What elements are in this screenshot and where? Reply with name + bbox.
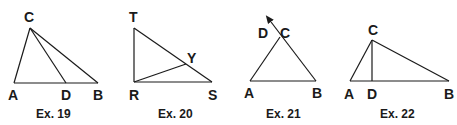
figure-ex-21: D C A B Ex. 21 bbox=[244, 18, 322, 121]
segment-ts bbox=[134, 28, 212, 82]
label-point-a: A bbox=[8, 87, 18, 103]
ray-bd bbox=[268, 18, 316, 81]
geometry-exercises-figure: C A D B Ex. 19 T Y R S Ex. 20 D C A B Ex… bbox=[0, 0, 457, 125]
label-point-b: B bbox=[444, 86, 454, 102]
figure-ex-20: T Y R S Ex. 20 bbox=[129, 9, 217, 121]
label-point-c: C bbox=[280, 25, 290, 41]
label-point-r: R bbox=[129, 87, 139, 103]
segment-ry bbox=[134, 64, 186, 82]
segment-cb bbox=[372, 40, 449, 81]
segment-cb bbox=[30, 28, 98, 83]
caption-ex-19: Ex. 19 bbox=[36, 107, 71, 121]
label-point-y: Y bbox=[187, 50, 197, 66]
caption-ex-20: Ex. 20 bbox=[158, 107, 193, 121]
label-point-b: B bbox=[312, 85, 322, 101]
label-point-c: C bbox=[24, 9, 34, 25]
caption-ex-21: Ex. 21 bbox=[266, 107, 301, 121]
segment-ca bbox=[350, 40, 372, 81]
segment-cd bbox=[30, 28, 66, 83]
label-point-a: A bbox=[344, 86, 354, 102]
figure-ex-19: C A D B Ex. 19 bbox=[8, 9, 103, 121]
label-point-c: C bbox=[368, 22, 378, 38]
label-point-a: A bbox=[244, 85, 254, 101]
caption-ex-22: Ex. 22 bbox=[380, 107, 415, 121]
segment-ca bbox=[14, 28, 30, 83]
label-point-d: D bbox=[367, 86, 377, 102]
label-point-b: B bbox=[93, 87, 103, 103]
label-point-s: S bbox=[208, 87, 217, 103]
label-point-t: T bbox=[129, 9, 138, 25]
label-point-d: D bbox=[258, 25, 268, 41]
figure-ex-22: C A D B Ex. 22 bbox=[344, 22, 454, 121]
label-point-d: D bbox=[61, 87, 71, 103]
segment-ac bbox=[250, 37, 280, 81]
